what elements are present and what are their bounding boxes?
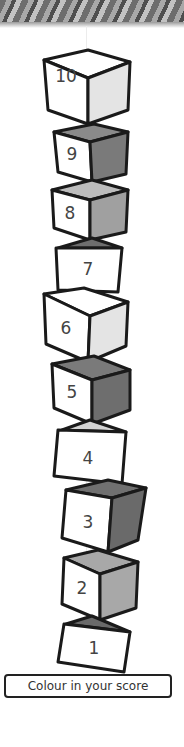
cube-number-5: 5 — [58, 382, 86, 402]
cube-tower — [0, 0, 184, 747]
cube-10[interactable] — [44, 50, 130, 124]
cube-number-6: 6 — [52, 318, 80, 338]
cube-number-9: 9 — [58, 144, 86, 164]
cube-number-2: 2 — [68, 578, 96, 598]
instruction-box: Colour in your score — [4, 674, 172, 698]
cube-number-4: 4 — [74, 448, 102, 468]
cube-number-10: 10 — [52, 66, 80, 86]
cube-number-3: 3 — [74, 512, 102, 532]
cube-number-7: 7 — [74, 259, 102, 279]
cube-number-1: 1 — [80, 638, 108, 658]
instruction-text: Colour in your score — [6, 679, 170, 693]
cube-number-8: 8 — [56, 203, 84, 223]
